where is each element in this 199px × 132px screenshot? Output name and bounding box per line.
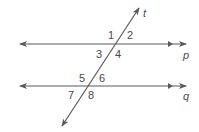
transversal-t [62,8,139,126]
diagram-canvas: t p q 1 2 3 4 5 6 7 8 [0,0,199,132]
angle-label-8: 8 [88,89,94,101]
angle-label-6: 6 [99,72,105,84]
label-t: t [143,7,147,19]
parallel-mark-p [168,41,173,47]
angle-label-2: 2 [127,29,133,41]
angle-label-7: 7 [68,89,74,101]
line-p [20,41,186,47]
label-p: p [182,49,189,61]
angle-label-5: 5 [79,72,85,84]
angle-label-3: 3 [96,48,102,60]
label-q: q [183,90,190,102]
parallel-mark-q [168,83,173,89]
angle-label-4: 4 [115,48,121,60]
angle-label-1: 1 [108,29,114,41]
